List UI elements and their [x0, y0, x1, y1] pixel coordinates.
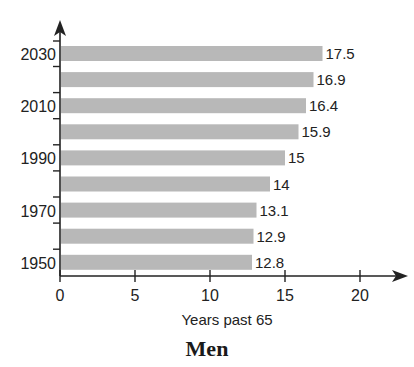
bar-2020	[61, 72, 314, 87]
y-tick-label-2030: 2030	[20, 46, 56, 63]
bar-chart: 12.812.913.1141515.916.416.917.5 1950197…	[0, 0, 414, 367]
x-ticks: 05101520	[56, 270, 369, 304]
x-tick-label-15: 15	[276, 287, 294, 304]
bars-group: 12.812.913.1141515.916.416.917.5	[61, 45, 355, 271]
value-label-1980: 14	[273, 176, 290, 193]
value-label-2000: 15.9	[302, 123, 331, 140]
x-tick-label-10: 10	[201, 287, 219, 304]
bar-1960	[61, 229, 254, 244]
chart-title: Men	[0, 336, 414, 362]
x-axis-label: Years past 65	[181, 311, 272, 328]
bar-1970	[61, 203, 257, 218]
bar-2030	[61, 46, 323, 61]
x-tick-label-0: 0	[56, 287, 65, 304]
y-tick-label-2010: 2010	[20, 98, 56, 115]
value-label-2020: 16.9	[317, 71, 346, 88]
x-tick-label-5: 5	[131, 287, 140, 304]
bar-1990	[61, 150, 285, 165]
y-tick-label-1950: 1950	[20, 255, 56, 272]
bar-1980	[61, 177, 270, 192]
bar-1950	[61, 255, 252, 270]
x-tick-label-20: 20	[351, 287, 369, 304]
value-label-2030: 17.5	[326, 45, 355, 62]
bar-2010	[61, 98, 306, 113]
value-label-1950: 12.8	[255, 254, 284, 271]
y-tick-label-1970: 1970	[20, 203, 56, 220]
value-label-1960: 12.9	[257, 228, 286, 245]
value-label-1990: 15	[288, 149, 305, 166]
value-label-2010: 16.4	[309, 97, 338, 114]
y-tick-label-1990: 1990	[20, 150, 56, 167]
y-tick-labels: 19501970199020102030	[20, 41, 60, 272]
bar-2000	[61, 124, 299, 139]
value-label-1970: 13.1	[260, 202, 289, 219]
